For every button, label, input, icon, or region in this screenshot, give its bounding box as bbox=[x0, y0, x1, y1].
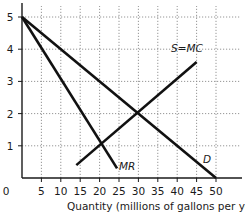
y-tick-label: 2 bbox=[7, 108, 14, 120]
y-tick-label: 1 bbox=[7, 140, 14, 152]
x-tick-label: 50 bbox=[209, 185, 222, 197]
x-tick-label: 30 bbox=[132, 185, 145, 197]
x-tick-label: 40 bbox=[171, 185, 184, 197]
mr-label: MR bbox=[119, 160, 135, 172]
y-tick-label: 4 bbox=[7, 43, 14, 55]
x-axis-title: Quantity (millions of gallons per year) bbox=[67, 200, 245, 212]
x-tick-label: 5 bbox=[38, 185, 45, 197]
y-tick-label: 3 bbox=[7, 75, 14, 87]
x-tick-label: 20 bbox=[93, 185, 106, 197]
x-tick-label: 15 bbox=[74, 185, 87, 197]
demand-label: D bbox=[203, 153, 211, 165]
chart: 0510152025303540455012345 S=MC MR D Quan… bbox=[0, 0, 245, 214]
x-tick-label: 25 bbox=[112, 185, 125, 197]
supply-label: S=MC bbox=[171, 42, 204, 54]
x-tick-label: 45 bbox=[190, 185, 203, 197]
x-tick-label: 0 bbox=[3, 185, 10, 197]
x-tick-label: 35 bbox=[151, 185, 164, 197]
y-tick-label: 5 bbox=[7, 11, 14, 23]
x-tick-label: 10 bbox=[54, 185, 67, 197]
series-mr bbox=[22, 17, 117, 168]
